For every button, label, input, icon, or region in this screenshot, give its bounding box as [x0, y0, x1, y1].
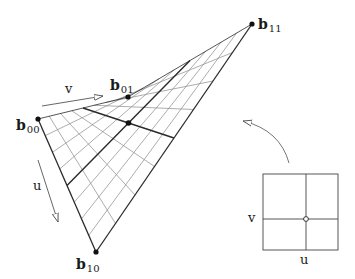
v-direction-label: v	[65, 82, 72, 95]
parameter-point-icon	[304, 217, 309, 222]
boundary-edge	[128, 24, 252, 97]
label-b11: b11	[258, 17, 282, 34]
mapping-arrow-icon	[243, 121, 289, 163]
u-direction-label: u	[33, 179, 41, 192]
control-point-b11	[249, 21, 254, 26]
center-point	[126, 120, 132, 126]
parameter-domain-square	[263, 174, 338, 250]
label-b01: b01	[110, 78, 134, 95]
control-point-b01	[125, 94, 130, 99]
boundary-edge	[38, 119, 96, 252]
square-border	[263, 174, 338, 250]
v-direction-arrow-icon	[42, 96, 103, 106]
patch-grid-lines	[45, 33, 236, 235]
boundary-edge	[96, 24, 252, 252]
control-point-b10	[93, 249, 98, 254]
label-b00: b00	[16, 118, 40, 135]
label-b10: b10	[76, 257, 100, 274]
square-u-label: u	[300, 253, 308, 266]
boundary-edge	[38, 97, 128, 119]
square-v-label: v	[248, 211, 255, 224]
diagram-canvas	[0, 0, 355, 279]
